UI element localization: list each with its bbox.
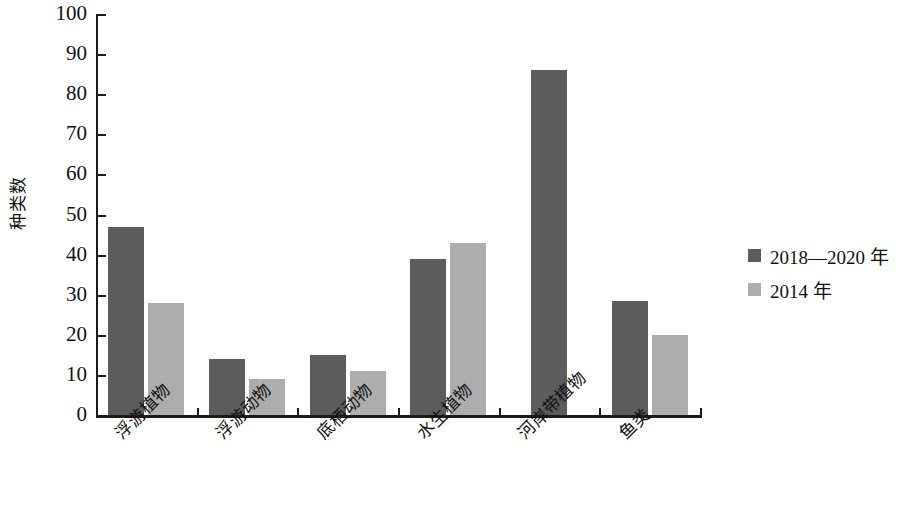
y-axis-tick: 100 (96, 14, 106, 16)
bar (652, 335, 688, 415)
legend-item[interactable]: 2018—2020 年 (748, 238, 889, 272)
y-axis-tick-label: 60 (66, 163, 87, 184)
y-axis-tick-label: 50 (66, 203, 87, 224)
x-axis-tick (398, 408, 400, 418)
legend-swatch-icon (748, 283, 761, 296)
legend: 2018—2020 年 2014 年 (748, 238, 889, 306)
y-axis-tick: 60 (96, 174, 106, 176)
y-axis-tick-label: 20 (66, 324, 87, 345)
x-axis-tick (197, 408, 199, 418)
y-axis-tick-label: 0 (77, 404, 88, 425)
y-axis-tick: 50 (96, 215, 106, 217)
legend-item[interactable]: 2014 年 (748, 272, 889, 306)
bar (531, 70, 567, 415)
y-axis-tick: 20 (96, 335, 106, 337)
bar-chart: 种类数 1009080706050403020100 浮游植物浮游动物底栖动物水… (0, 0, 901, 517)
y-axis-tick: 80 (96, 94, 106, 96)
bar (410, 259, 446, 415)
bar (108, 227, 144, 415)
legend-swatch-icon (748, 249, 761, 262)
y-axis-tick-label: 80 (66, 83, 87, 104)
y-axis-tick: 40 (96, 255, 106, 257)
legend-label: 2018—2020 年 (770, 242, 889, 269)
y-axis-title: 种类数 (4, 143, 29, 263)
y-axis-tick: 10 (96, 375, 106, 377)
x-axis-tick (700, 408, 702, 418)
y-axis-tick: 30 (96, 295, 106, 297)
y-axis-tick: 90 (96, 54, 106, 56)
y-axis-tick: 70 (96, 134, 106, 136)
legend-label: 2014 年 (770, 276, 832, 303)
plot-area: 1009080706050403020100 (96, 14, 700, 418)
y-axis-tick-label: 10 (66, 364, 87, 385)
bar (612, 301, 648, 415)
y-axis-tick-label: 100 (56, 3, 88, 24)
y-axis-tick-label: 90 (66, 43, 87, 64)
x-axis-tick (96, 408, 98, 418)
y-axis-tick-label: 40 (66, 243, 87, 264)
x-axis-tick (599, 408, 601, 418)
y-axis-tick-label: 30 (66, 284, 87, 305)
y-axis-tick-label: 70 (66, 123, 87, 144)
x-axis-tick (297, 408, 299, 418)
x-axis-tick (499, 408, 501, 418)
